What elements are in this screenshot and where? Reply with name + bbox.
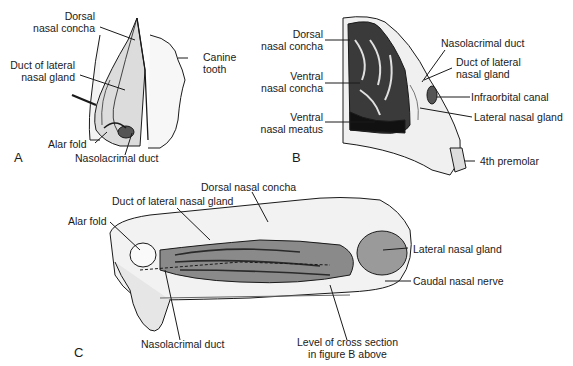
label-c-lateral-nasal-gland: Lateral nasal gland xyxy=(413,243,502,255)
label-c-level-cross-section: Level of cross section in figure B above xyxy=(295,336,400,360)
panel-a-drawing xyxy=(72,18,188,155)
label-b-ventral-nasal-concha: Ventral nasal concha xyxy=(255,70,323,94)
label-a-canine-tooth: Canine tooth xyxy=(203,51,236,75)
label-b-fourth-premolar: 4th premolar xyxy=(480,155,539,167)
label-b-ventral-nasal-meatus: Ventral nasal meatus xyxy=(255,111,323,135)
label-a-dorsal-nasal-concha: Dorsal nasal concha xyxy=(50,10,95,34)
panel-letter-c: C xyxy=(74,345,83,360)
label-a-nasolacrimal-duct: Nasolacrimal duct xyxy=(75,152,158,164)
label-c-caudal-nasal-nerve: Caudal nasal nerve xyxy=(413,275,503,287)
label-b-dorsal-nasal-concha: Dorsal nasal concha xyxy=(255,28,323,52)
panel-c-drawing xyxy=(110,192,411,340)
label-b-duct-lateral-nasal-gland: Duct of lateral nasal gland xyxy=(456,56,521,80)
label-c-duct-lateral-nasal-gland: Duct of lateral nasal gland xyxy=(112,195,233,207)
label-b-nasolacrimal-duct: Nasolacrimal duct xyxy=(441,37,524,49)
label-c-alar-fold: Alar fold xyxy=(68,215,107,227)
label-c-nasolacrimal-duct: Nasolacrimal duct xyxy=(141,338,224,350)
label-b-infraorbital-canal: Infraorbital canal xyxy=(471,91,549,103)
panel-letter-a: A xyxy=(14,150,23,165)
label-a-alar-fold: Alar fold xyxy=(48,138,87,150)
label-b-lateral-nasal-gland: Lateral nasal gland xyxy=(474,111,563,123)
panel-letter-b: B xyxy=(292,150,301,165)
label-c-dorsal-nasal-concha: Dorsal nasal concha xyxy=(201,181,296,193)
label-a-duct-lateral-nasal-gland: Duct of lateral nasal gland xyxy=(5,59,75,83)
